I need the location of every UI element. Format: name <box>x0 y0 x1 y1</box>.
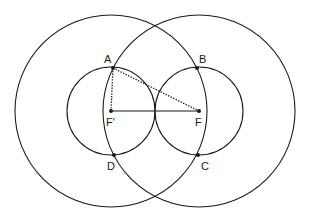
ellipse-construction-diagram: ABCDF′F <box>0 0 311 223</box>
diagram-canvas: ABCDF′F <box>0 0 311 223</box>
point-d-dot <box>112 153 116 157</box>
point-label-d: D <box>107 160 115 172</box>
point-f1-dot <box>109 109 113 113</box>
point-b-dot <box>195 66 199 70</box>
segment-a-f1 <box>111 68 113 111</box>
point-label-f1: F′ <box>106 116 115 128</box>
point-c-dot <box>196 153 200 157</box>
point-label-c: C <box>201 160 209 172</box>
point-label-f: F <box>195 116 202 128</box>
point-a-dot <box>111 66 115 70</box>
point-label-a: A <box>104 53 112 65</box>
point-label-b: B <box>199 53 206 65</box>
point-f-dot <box>197 109 201 113</box>
